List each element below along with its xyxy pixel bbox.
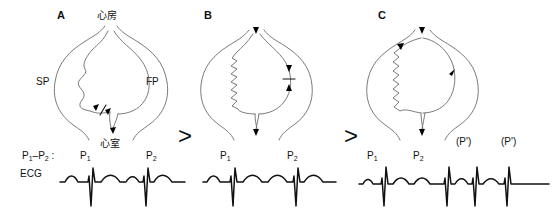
anatomy-diagram-b <box>185 0 355 150</box>
ecg-p1-label-a: P1 <box>80 150 91 161</box>
ecg-tracing-a <box>60 162 185 216</box>
label-coupling-interval: P1–P2 : <box>22 150 54 161</box>
p1-letter-c: P <box>367 150 374 161</box>
coupling-sub1: 1 <box>29 155 33 162</box>
p2-sub: 2 <box>153 155 157 162</box>
p2-letter-c: P <box>413 150 420 161</box>
ecg-p1-label-b: P1 <box>220 150 231 161</box>
p2-letter-b: P <box>287 150 294 161</box>
p1-sub-c: 1 <box>374 155 378 162</box>
p2-sub-c: 2 <box>420 155 424 162</box>
coupling-dash: –P <box>33 150 45 161</box>
ecg-tracing-b <box>203 162 343 216</box>
panel-a: A 心房 心室 SP FP P1–P2 : ECG P1 P2 <box>0 0 185 216</box>
anatomy-diagram-a <box>0 0 185 150</box>
p2-letter: P <box>146 150 153 161</box>
p2-sub-b: 2 <box>294 155 298 162</box>
panel-b: B P1 P2 <box>185 0 355 216</box>
label-ecg-a: ECG <box>20 168 42 179</box>
p1-sub: 1 <box>87 155 91 162</box>
coupling-sub2: 2 <box>45 155 49 162</box>
p1-sub-b: 1 <box>227 155 231 162</box>
panel-c: C P1 P2 (P') (P') <box>355 0 559 216</box>
coupling-p: P <box>22 150 29 161</box>
p1-letter-b: P <box>220 150 227 161</box>
coupling-colon: : <box>49 150 55 161</box>
anatomy-diagram-c <box>355 0 559 150</box>
ecg-tracing-c <box>359 162 555 216</box>
ecg-p1-label-c: P1 <box>367 150 378 161</box>
ecg-p2-label-b: P2 <box>287 150 298 161</box>
ecg-p2-label-c: P2 <box>413 150 424 161</box>
p1-letter: P <box>80 150 87 161</box>
ecg-p2-label-a: P2 <box>146 150 157 161</box>
figure-canvas: A 心房 心室 SP FP P1–P2 : ECG P1 P2 <box>0 0 559 216</box>
